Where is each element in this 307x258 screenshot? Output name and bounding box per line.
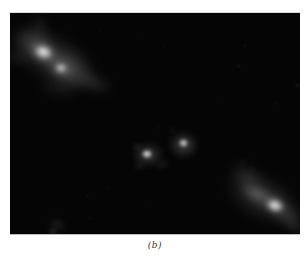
tl-cloud-upper <box>10 17 63 68</box>
field-speckle <box>88 217 92 220</box>
br-tendril-edge <box>279 214 300 234</box>
center-left-halo <box>132 142 164 167</box>
field-speckle <box>243 44 247 47</box>
figure-caption: (b) <box>10 240 300 250</box>
br-core-halo <box>258 191 291 219</box>
br-cloud-lower <box>266 197 300 234</box>
bottom-smudge <box>47 217 66 234</box>
center-speck-c <box>169 128 175 133</box>
center-right-halo <box>168 131 199 159</box>
center-left-speck-a <box>132 143 141 150</box>
center-left-core <box>141 149 153 159</box>
field-speckle <box>139 36 142 39</box>
field-speckle <box>98 29 102 32</box>
figure-page: (b) <box>0 0 307 258</box>
field-speckle <box>295 83 300 87</box>
tl-cloud-lower <box>34 76 81 103</box>
br-cloud-main <box>216 160 300 234</box>
tl-core-halo <box>24 35 63 69</box>
field-speckle <box>85 194 89 198</box>
field-speckle <box>161 45 165 48</box>
tl-cloud-mid <box>34 40 101 101</box>
tl-secondary-core <box>55 63 67 73</box>
center-speck-d <box>156 125 161 129</box>
br-speck-a <box>240 160 246 165</box>
tl-core <box>32 42 55 62</box>
center-left-speck-b <box>133 162 145 170</box>
br-cloud-upper <box>222 155 271 199</box>
field-speckle <box>149 204 152 207</box>
field-speckle <box>273 102 277 105</box>
field-speckle <box>236 64 241 68</box>
tl-cloud-right-tendril <box>72 67 116 99</box>
astronomy-image <box>10 13 300 234</box>
br-core <box>264 196 285 214</box>
field-speckle <box>217 95 220 98</box>
tl-secondary-halo <box>46 55 75 81</box>
center-right-core <box>178 138 189 148</box>
tl-wisp-left <box>10 49 32 68</box>
br-inner-bar <box>236 178 278 210</box>
tl-wisp-top <box>27 13 53 40</box>
br-speck-b <box>250 167 255 171</box>
bottom-bright-dot <box>49 229 56 234</box>
field-speckle <box>107 187 110 190</box>
center-left-arc <box>152 158 171 171</box>
tl-cloud-main <box>10 13 111 106</box>
